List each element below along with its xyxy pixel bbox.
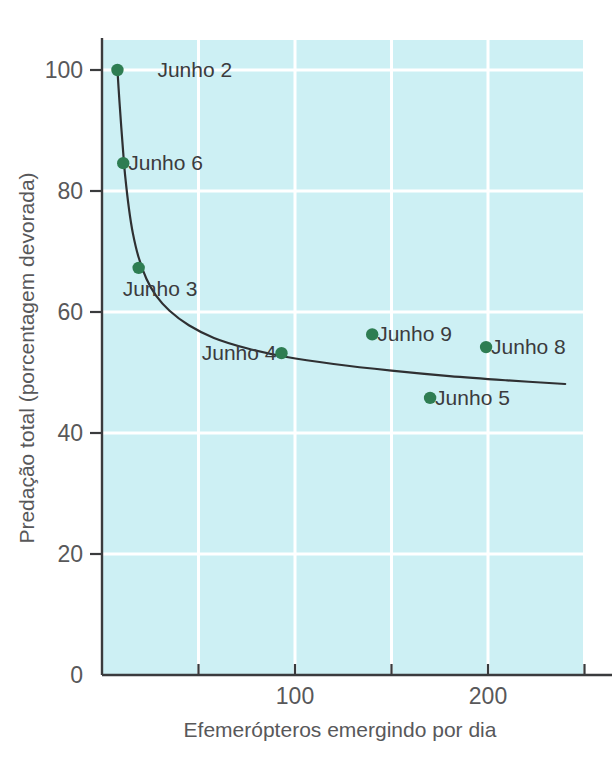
y-tick-label: 80 [57, 178, 83, 204]
x-tick-label: 100 [276, 683, 314, 709]
x-axis-title: Efemerópteros emergindo por dia [184, 718, 497, 741]
y-tick-label: 100 [45, 57, 83, 83]
y-tick-label: 60 [57, 299, 83, 325]
data-point-label: Junho 2 [157, 58, 232, 81]
data-point-label: Junho 3 [123, 277, 198, 300]
data-point-label: Junho 6 [128, 151, 203, 174]
scatter-chart-svg: 100200 020406080100 Junho 2Junho 6Junho … [0, 0, 614, 770]
data-point-label: Junho 5 [435, 386, 510, 409]
chart-figure: 100200 020406080100 Junho 2Junho 6Junho … [0, 0, 614, 770]
data-point [275, 347, 287, 359]
data-point-label: Junho 9 [377, 322, 452, 345]
x-tick-label: 200 [469, 683, 507, 709]
data-point [132, 262, 144, 274]
y-axis-title: Predação total (porcentagem devorada) [15, 172, 38, 543]
data-point-label: Junho 8 [491, 335, 566, 358]
data-point-label: Junho 4 [202, 341, 277, 364]
y-tick-label: 0 [70, 662, 83, 688]
data-point [111, 64, 123, 76]
y-tick-label: 20 [57, 541, 83, 567]
y-tick-label: 40 [57, 420, 83, 446]
